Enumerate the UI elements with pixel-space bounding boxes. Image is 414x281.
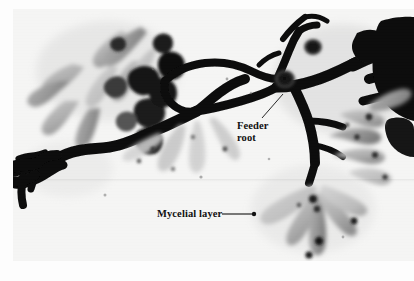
specimen-photograph (13, 9, 414, 261)
mycorrhizal-root-figure: Feeder root Mycelial layer (0, 0, 414, 281)
specimen-photograph-artwork (13, 9, 414, 261)
feeder-root-label: Feeder root (237, 120, 269, 143)
mycelial-layer-label: Mycelial layer (157, 208, 222, 220)
